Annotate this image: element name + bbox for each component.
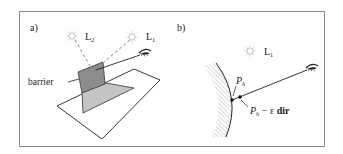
panel-b: b) Ph Ph − ε dir L1 [177,22,318,137]
panel-b-label: b) [177,22,185,34]
eye-icon [306,64,318,71]
ground-plane [57,69,160,139]
light-label-l1-b: L1 [264,46,273,58]
figure-canvas: a) barrier L2 L1 b) [0,0,343,154]
sun-icon [126,31,138,43]
barrier-pointer [68,79,79,82]
sun-icon [66,30,78,42]
barrier-label: barrier [28,77,54,87]
sun-icon [244,45,256,57]
point-offset-label: Ph − ε dir [249,105,290,117]
panel-a: a) barrier L2 L1 [28,22,160,139]
surface-solid [204,63,232,137]
offset-pointer [241,100,248,107]
light-ray-l1 [104,40,130,62]
point-hit-label: Ph [235,75,245,87]
hit-pointer [233,86,236,96]
eye-icon [139,49,151,56]
panel-a-label: a) [30,22,38,34]
light-ray-l2 [75,40,90,66]
point-hit [230,98,234,102]
point-offset [238,95,242,99]
light-label-l1: L1 [146,31,155,43]
figure-frame [20,12,325,147]
light-label-l2: L2 [85,31,94,43]
